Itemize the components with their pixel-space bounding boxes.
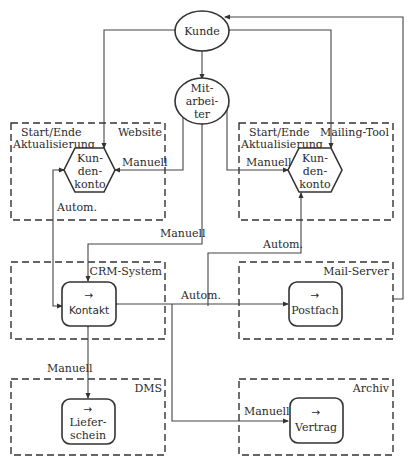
- arrow-right-icon: →: [84, 403, 93, 415]
- edge-kontakt-vertrag: [172, 304, 288, 421]
- node-label-kundenkonto-mailing-3: konto: [299, 178, 331, 191]
- node-label-kunde: Kunde: [184, 25, 220, 38]
- node-vertrag[interactable]: → Vertrag: [290, 398, 343, 443]
- node-postfach[interactable]: → Postfach: [289, 282, 342, 326]
- node-label-lieferschein-1: Liefer-: [70, 416, 107, 429]
- system-title-website: Website: [118, 126, 162, 139]
- system-title-archiv: Archiv: [352, 382, 390, 395]
- edge-mitarbeiter-kontakt: [88, 120, 202, 281]
- node-label-kundenkonto-mailing-1: Kun-: [302, 152, 328, 165]
- system-title-dms: DMS: [134, 382, 162, 395]
- edge-label-kontakt-postfach-autom: Autom.: [180, 289, 221, 302]
- node-label-mitarbeiter-3: ter: [194, 108, 211, 121]
- node-label-kontakt: Kontakt: [69, 304, 109, 316]
- arrow-right-icon: →: [85, 289, 94, 301]
- node-lieferschein[interactable]: → Liefer- schein: [62, 399, 115, 444]
- edge-label-website-autom: Autom.: [56, 201, 97, 214]
- node-label-kundenkonto-website-2: den-: [78, 165, 103, 178]
- node-label-mitarbeiter-1: Mit-: [191, 82, 214, 95]
- node-label-kundenkonto-website-3: konto: [74, 178, 106, 191]
- node-label-lieferschein-2: schein: [70, 429, 106, 442]
- arrow-right-icon: →: [311, 289, 320, 301]
- edge-label-mailing-autom: Autom.: [262, 238, 303, 251]
- system-title-mailing-tool: Mailing-Tool: [320, 126, 390, 139]
- node-kunde[interactable]: Kunde: [175, 11, 229, 51]
- arrow-right-icon: →: [312, 406, 321, 418]
- process-diagram: Website Start/Ende Aktualisierung Mailin…: [0, 0, 413, 465]
- edge-label-mailing-manuell: Manuell: [246, 156, 292, 169]
- edge-label-website-manuell: Manuell: [122, 156, 168, 169]
- edge-label-mitarbeiter-kontakt-manuell: Manuell: [160, 227, 206, 240]
- system-title-crm: CRM-System: [90, 265, 163, 278]
- node-mitarbeiter[interactable]: Mit- arbei- ter: [175, 78, 229, 124]
- node-kundenkonto-mailing[interactable]: Kun- den- konto: [288, 148, 342, 192]
- edge-label-kontakt-lieferschein-manuell: Manuell: [47, 362, 93, 375]
- node-label-postfach: Postfach: [291, 304, 339, 317]
- system-title-mail-server: Mail-Server: [323, 265, 390, 278]
- node-label-kundenkonto-website-1: Kun-: [77, 152, 103, 165]
- node-kontakt[interactable]: → Kontakt: [62, 282, 116, 326]
- node-label-vertrag: Vertrag: [294, 421, 337, 434]
- node-label-mitarbeiter-2: arbei-: [186, 95, 219, 108]
- node-label-kundenkonto-mailing-2: den-: [303, 165, 328, 178]
- edge-label-kontakt-vertrag-manuell: Manuell: [244, 405, 290, 418]
- node-kundenkonto-website[interactable]: Kun- den- konto: [64, 148, 115, 192]
